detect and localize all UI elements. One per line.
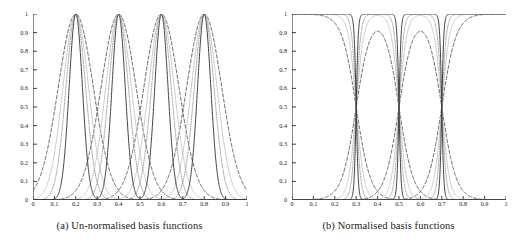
x-tick-label: 0.5	[395, 201, 403, 207]
basis-curve-solid-narrow	[33, 14, 247, 200]
y-tick-label: 0.5	[279, 104, 287, 110]
x-tick-label: 0.3	[93, 201, 101, 207]
plot-area-a	[33, 14, 247, 200]
basis-curve-solid-narrow	[33, 14, 247, 200]
panel-un-normalised: 00.10.20.30.40.50.60.70.80.91 00.10.20.3…	[0, 0, 259, 251]
basis-curve-dashed-wide	[33, 14, 247, 200]
basis-curve-dotted-medium	[33, 14, 247, 200]
y-tick-label: 0.2	[279, 160, 287, 166]
y-tick-label: 0.7	[279, 67, 287, 73]
normalised-curve-solid-narrow-2	[292, 14, 506, 200]
y-tick-label: 0.6	[279, 85, 287, 91]
x-tick-label: 0.7	[179, 201, 187, 207]
x-axis-tick-labels-a: 00.10.20.30.40.50.60.70.80.91	[33, 201, 247, 213]
x-tick-label: 0.2	[72, 201, 80, 207]
x-tick-label: 0.5	[136, 201, 144, 207]
y-tick-label: 0.9	[279, 29, 287, 35]
y-tick-label: 0.6	[20, 85, 28, 91]
basis-curve-dotted-medium	[33, 14, 247, 200]
basis-curve-dashed-wide	[33, 14, 247, 200]
y-tick-label: 0.1	[20, 178, 28, 184]
basis-curve-solid-narrow	[33, 14, 247, 200]
y-axis-tick-labels-a: 00.10.20.30.40.50.60.70.80.91	[0, 14, 30, 200]
y-tick-label: 1	[25, 11, 28, 17]
x-tick-label: 0.6	[417, 201, 425, 207]
y-tick-label: 0.8	[279, 48, 287, 54]
basis-curve-light-grey-medium	[33, 14, 247, 200]
plot-svg-b	[292, 14, 506, 200]
figure-container: 00.10.20.30.40.50.60.70.80.91 00.10.20.3…	[0, 0, 518, 251]
x-tick-label: 0.9	[222, 201, 230, 207]
y-tick-label: 0.8	[20, 48, 28, 54]
x-tick-label: 0.9	[481, 201, 489, 207]
x-tick-label: 0.2	[331, 201, 339, 207]
panel-b-caption: (b) Normalised basis functions	[259, 220, 518, 231]
panel-normalised: 00.10.20.30.40.50.60.70.80.91 00.10.20.3…	[259, 0, 518, 251]
y-tick-label: 0.4	[279, 122, 287, 128]
y-tick-label: 0.7	[20, 67, 28, 73]
basis-curve-dotted-medium	[33, 14, 247, 200]
basis-curve-light-grey-medium	[33, 14, 247, 200]
x-tick-label: 0.8	[459, 201, 467, 207]
y-tick-label: 0	[25, 197, 28, 203]
basis-curve-dashed-wide	[33, 14, 247, 200]
basis-curve-light-grey-medium	[33, 14, 247, 200]
basis-curve-light-grey-medium	[33, 14, 247, 200]
y-tick-label: 0.5	[20, 104, 28, 110]
y-tick-label: 1	[284, 11, 287, 17]
x-tick-label: 0.6	[158, 201, 166, 207]
x-tick-label: 0	[31, 201, 34, 207]
y-tick-label: 0.3	[279, 141, 287, 147]
basis-curve-dotted-medium	[33, 14, 247, 200]
y-tick-label: 0.2	[20, 160, 28, 166]
y-tick-label: 0	[284, 197, 287, 203]
panel-a-caption: (a) Un-normalised basis functions	[0, 220, 259, 231]
y-tick-label: 0.3	[20, 141, 28, 147]
x-tick-label: 0.1	[310, 201, 318, 207]
x-tick-label: 0.4	[115, 201, 123, 207]
plot-area-b	[292, 14, 506, 200]
x-axis-tick-labels-b: 00.10.20.30.40.50.60.70.80.91	[292, 201, 506, 213]
y-tick-label: 0.4	[20, 122, 28, 128]
x-tick-label: 0.7	[438, 201, 446, 207]
x-tick-label: 0.1	[51, 201, 59, 207]
plot-svg-a	[33, 14, 247, 200]
x-tick-label: 1	[504, 201, 507, 207]
y-tick-label: 0.9	[20, 29, 28, 35]
x-tick-label: 0.3	[352, 201, 360, 207]
x-tick-label: 0.8	[200, 201, 208, 207]
y-axis-tick-labels-b: 00.10.20.30.40.50.60.70.80.91	[259, 14, 289, 200]
y-tick-label: 0.1	[279, 178, 287, 184]
basis-curve-dashed-wide	[33, 14, 247, 200]
basis-curve-solid-narrow	[33, 14, 247, 200]
x-tick-label: 0	[290, 201, 293, 207]
x-tick-label: 1	[245, 201, 248, 207]
x-tick-label: 0.4	[374, 201, 382, 207]
